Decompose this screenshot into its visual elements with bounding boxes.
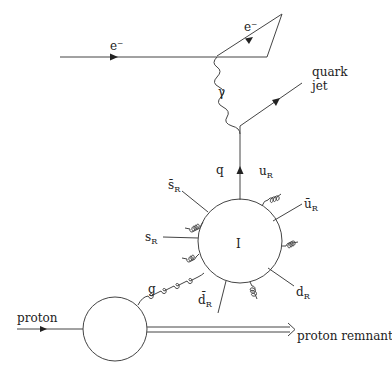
gluon-bottom <box>250 282 257 299</box>
gluon-upper-left <box>185 222 203 232</box>
feynman-diagram: e⁻ e⁻ γ quark jet q I uR ūR dR <box>0 0 392 376</box>
s-r-label: sR <box>145 230 158 246</box>
proton-label: proton <box>17 311 58 325</box>
instanton-label: I <box>236 237 241 251</box>
dbar-r-label: d̄R <box>198 291 213 309</box>
gluon-upper-right <box>262 194 281 206</box>
arrow-icon <box>272 98 280 106</box>
gluon-label: g <box>148 282 156 296</box>
gluon-right <box>282 241 298 248</box>
arrow-icon <box>40 326 47 332</box>
photon-label: γ <box>218 85 225 99</box>
quark-jet-line <box>240 83 302 126</box>
arrow-icon <box>110 54 118 61</box>
gluon-left-lower <box>182 254 199 262</box>
electron-in-label: e⁻ <box>110 39 123 53</box>
proton-remnant-arrow <box>147 323 295 336</box>
s-r-line <box>163 237 198 238</box>
sbar-r-label: s̄R <box>168 178 181 194</box>
quark-jet-label-line2: jet <box>310 79 328 93</box>
proton-blob <box>83 297 147 361</box>
incoming-electron-line <box>60 54 267 61</box>
proton-remnant-label: proton remnant <box>297 329 392 343</box>
electron-out-label: e⁻ <box>244 20 257 34</box>
sbar-r-line <box>182 191 208 212</box>
dbar-r-line <box>218 281 226 313</box>
quark-label: q <box>216 163 224 177</box>
d-r-label: dR <box>296 285 311 301</box>
arrow-icon <box>245 37 253 44</box>
ubar-r-label: ūR <box>304 197 319 213</box>
ubar-r-line <box>273 204 302 221</box>
d-r-line <box>268 268 294 286</box>
quark-jet-label-line1: quark <box>312 65 348 79</box>
arrow-icon <box>237 166 244 174</box>
u-r-label: uR <box>259 164 274 180</box>
